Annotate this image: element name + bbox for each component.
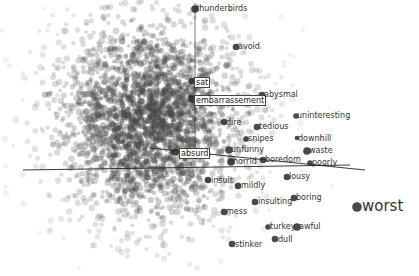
data-point[interactable] <box>77 151 83 157</box>
data-point[interactable] <box>175 73 180 78</box>
data-point[interactable] <box>152 118 156 122</box>
data-point[interactable] <box>107 13 111 17</box>
data-point[interactable] <box>68 107 72 111</box>
data-point[interactable] <box>100 14 107 21</box>
word-label-mess[interactable]: mess <box>226 207 247 216</box>
data-point[interactable] <box>64 196 70 202</box>
data-point[interactable] <box>43 6 47 10</box>
data-point[interactable] <box>40 79 46 85</box>
data-point[interactable] <box>193 189 197 193</box>
data-point[interactable] <box>111 124 118 131</box>
data-point[interactable] <box>225 41 229 45</box>
data-point[interactable] <box>270 108 274 112</box>
data-point[interactable] <box>158 48 164 54</box>
data-point[interactable] <box>117 217 122 222</box>
data-point[interactable] <box>123 23 127 27</box>
data-point[interactable] <box>112 227 116 231</box>
data-point[interactable] <box>239 74 243 78</box>
data-point[interactable] <box>34 101 40 107</box>
word-label-avoid[interactable]: avoid <box>238 42 260 51</box>
data-point[interactable] <box>119 238 124 243</box>
data-point[interactable] <box>91 133 98 140</box>
data-point[interactable] <box>3 57 9 63</box>
data-point[interactable] <box>64 56 70 62</box>
data-point[interactable] <box>171 82 175 86</box>
data-point[interactable] <box>95 98 99 102</box>
data-point[interactable] <box>38 179 43 184</box>
data-point[interactable] <box>34 71 38 75</box>
data-point[interactable] <box>108 35 114 41</box>
data-point[interactable] <box>206 196 210 200</box>
data-point[interactable] <box>131 201 138 208</box>
data-point[interactable] <box>94 167 99 172</box>
data-point[interactable] <box>166 104 171 109</box>
data-point[interactable] <box>167 252 171 256</box>
data-point[interactable] <box>248 61 254 67</box>
data-point[interactable] <box>62 236 66 240</box>
data-point[interactable] <box>195 49 201 55</box>
data-point[interactable] <box>231 66 235 70</box>
data-point[interactable] <box>187 261 193 267</box>
data-point[interactable] <box>104 71 108 75</box>
data-point[interactable] <box>118 91 122 95</box>
data-point[interactable] <box>215 65 220 70</box>
word-label-embarrassement[interactable]: embarrassement <box>194 95 266 106</box>
data-point[interactable] <box>153 123 159 129</box>
data-point[interactable] <box>217 168 223 174</box>
data-point[interactable] <box>162 190 168 196</box>
data-point[interactable] <box>76 145 82 151</box>
data-point[interactable] <box>152 109 158 115</box>
data-point[interactable] <box>20 171 26 177</box>
data-point[interactable] <box>183 199 189 205</box>
data-point[interactable] <box>60 198 64 202</box>
data-point[interactable] <box>119 111 125 117</box>
data-point[interactable] <box>236 34 241 39</box>
data-point[interactable] <box>54 111 58 115</box>
data-point[interactable] <box>221 190 225 194</box>
data-point[interactable] <box>203 130 208 135</box>
word-label-horrid[interactable]: horrid <box>233 157 257 166</box>
data-point[interactable] <box>2 136 8 142</box>
embedding-projector-canvas[interactable]: thunderbirdsavoidsatembarrassementabysma… <box>0 0 419 276</box>
data-point[interactable] <box>142 71 148 77</box>
data-point[interactable] <box>177 60 182 65</box>
data-point[interactable] <box>209 188 214 193</box>
data-point[interactable] <box>225 46 229 50</box>
data-point[interactable] <box>87 34 93 40</box>
data-point[interactable] <box>148 83 152 87</box>
data-point[interactable] <box>196 197 202 203</box>
data-point[interactable] <box>185 194 189 198</box>
data-point[interactable] <box>150 23 155 28</box>
data-point[interactable] <box>58 216 64 222</box>
data-point[interactable] <box>50 13 55 18</box>
data-point[interactable] <box>202 24 209 31</box>
data-point[interactable] <box>71 70 75 74</box>
word-point-worst[interactable] <box>352 202 362 212</box>
data-point[interactable] <box>267 208 271 212</box>
word-label-stinker[interactable]: stinker <box>235 240 262 249</box>
data-point[interactable] <box>142 124 146 128</box>
data-point[interactable] <box>259 115 265 121</box>
data-point[interactable] <box>214 140 220 146</box>
data-point[interactable] <box>292 55 296 59</box>
data-point[interactable] <box>82 198 89 205</box>
data-point[interactable] <box>114 114 119 119</box>
data-point[interactable] <box>47 23 51 27</box>
data-point[interactable] <box>79 57 85 63</box>
data-point[interactable] <box>162 86 168 92</box>
data-point[interactable] <box>130 139 134 143</box>
data-point[interactable] <box>81 65 86 70</box>
data-point[interactable] <box>162 25 167 30</box>
data-point[interactable] <box>97 132 103 138</box>
word-label-boring[interactable]: boring <box>296 193 322 202</box>
data-point[interactable] <box>102 147 107 152</box>
data-point[interactable] <box>126 199 131 204</box>
data-point[interactable] <box>110 75 115 80</box>
data-point[interactable] <box>168 155 174 161</box>
data-point[interactable] <box>237 175 242 180</box>
data-point[interactable] <box>137 175 141 179</box>
data-point[interactable] <box>61 92 67 98</box>
data-point[interactable] <box>217 61 221 65</box>
data-point[interactable] <box>12 144 16 148</box>
data-point[interactable] <box>242 13 248 19</box>
